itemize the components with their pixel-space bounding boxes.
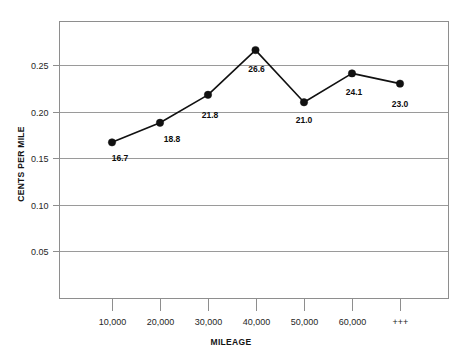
chart-container: 0.050.100.150.200.25 10,00020,00030,0004… (0, 0, 463, 358)
data-point-marker (252, 46, 259, 53)
data-point-marker (156, 119, 163, 126)
data-point-marker (300, 99, 307, 106)
data-point-label: 23.0 (392, 99, 409, 109)
chart-background (0, 0, 463, 358)
y-tick-label: 0.05 (31, 247, 49, 257)
y-tick-label: 0.20 (31, 108, 49, 118)
data-point-label: 26.6 (248, 64, 265, 74)
x-tick-label: 40,000 (243, 317, 271, 327)
data-point-label: 24.1 (346, 87, 363, 97)
y-axis-title: CENTS PER MILE (16, 126, 26, 202)
y-tick-label: 0.25 (31, 61, 49, 71)
data-point-label: 21.8 (202, 110, 219, 120)
x-tick-label: 50,000 (291, 317, 319, 327)
data-point-marker (396, 80, 403, 87)
x-tick-label: 20,000 (147, 317, 175, 327)
data-point-label: 21.0 (296, 115, 313, 125)
y-tick-label: 0.15 (31, 154, 49, 164)
x-axis-title: MILEAGE (211, 337, 252, 347)
x-tick-label: 30,000 (195, 317, 223, 327)
data-point-label: 18.8 (164, 134, 181, 144)
x-tick-label: +++ (393, 317, 409, 327)
data-point-marker (108, 139, 115, 146)
data-point-marker (204, 91, 211, 98)
y-tick-label: 0.10 (31, 201, 49, 211)
x-tick-label: 60,000 (339, 317, 367, 327)
data-point-label: 16.7 (112, 153, 129, 163)
line-chart: 0.050.100.150.200.25 10,00020,00030,0004… (0, 0, 463, 358)
x-tick-label: 10,000 (99, 317, 127, 327)
data-point-marker (348, 70, 355, 77)
